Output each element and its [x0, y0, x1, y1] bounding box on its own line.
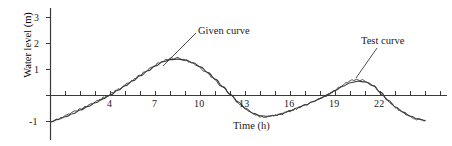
- given-curve-label: Given curve: [198, 26, 250, 37]
- y-tick-label-1: 1: [34, 65, 39, 75]
- x-tick-label-4: 4: [107, 99, 112, 109]
- x-tick-label-7: 7: [152, 99, 157, 109]
- test-curve-label: Test curve: [361, 36, 404, 47]
- x-tick-label-22: 22: [374, 99, 384, 109]
- x-axis-title: Time (h): [233, 121, 270, 132]
- x-tick-label-19: 19: [329, 99, 339, 109]
- given-curve-leader-line: [163, 33, 196, 66]
- y-tick-marks: [46, 18, 51, 122]
- y-tick-label-minus-1: -1: [29, 117, 38, 127]
- x-tick-label-16: 16: [284, 99, 294, 109]
- x-tick-label-10: 10: [194, 99, 204, 109]
- test-curve-leader-line: [356, 48, 377, 78]
- given-curve: [51, 59, 426, 122]
- y-axis-title-wrapper: Water level (m): [17, 3, 31, 87]
- chart-plot-area: [0, 0, 452, 146]
- test-curve: [51, 58, 426, 122]
- y-tick-label-3: 3: [34, 13, 39, 23]
- x-tick-label-13: 13: [239, 99, 249, 109]
- y-tick-label-2: 2: [34, 39, 39, 49]
- y-axis-title: Water level (m): [22, 12, 33, 78]
- chart-figure: 3 2 1 -1 4 7 10 13 16 19 22 Water level …: [0, 0, 452, 146]
